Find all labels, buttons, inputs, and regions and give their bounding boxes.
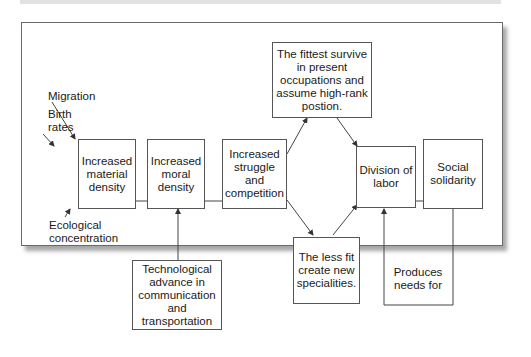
node-technological-advance: Technological advance in communication a… — [132, 260, 222, 330]
node-less-fit: The less fit create new specialities. — [293, 237, 360, 304]
input-ecological-line2: concentration — [49, 232, 118, 245]
node-struggle-competition: Increased struggle and competition — [222, 139, 287, 209]
node-division-of-labor: Division of labor — [356, 146, 416, 208]
node-moral-density: Increased moral density — [147, 139, 205, 209]
node-fittest-survive: The fittest survive in present occupatio… — [272, 42, 372, 118]
node-material-density: Increased material density — [78, 139, 136, 209]
node-social-solidarity: Social solidarity — [423, 139, 483, 209]
input-birth-rates-line1: Birth — [48, 108, 72, 121]
input-ecological-line1: Ecological — [49, 219, 101, 232]
input-birth-rates-line2: rates — [48, 121, 74, 134]
label-produces-needs-for: Produces needs for — [386, 266, 450, 292]
input-migration: Migration — [48, 90, 95, 103]
